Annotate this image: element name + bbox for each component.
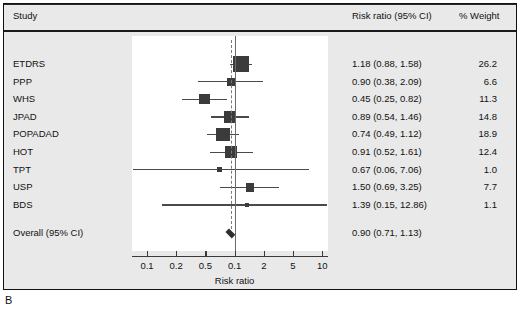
overall-risk-ratio-value: 0.90 (0.71, 1.13) bbox=[352, 227, 422, 238]
x-axis-tick bbox=[322, 251, 323, 256]
weight-value: 1.0 bbox=[459, 164, 497, 175]
study-label: JPAD bbox=[13, 111, 37, 122]
weight-value: 12.4 bbox=[459, 146, 497, 157]
null-effect-line bbox=[235, 36, 236, 256]
study-label: WHS bbox=[13, 93, 35, 104]
risk-ratio-value: 0.90 (0.38, 2.09) bbox=[352, 76, 422, 87]
x-axis-title: Risk ratio bbox=[215, 275, 255, 286]
header-rule-bottom bbox=[4, 30, 516, 32]
x-axis-tick bbox=[264, 251, 265, 256]
weight-value: 14.8 bbox=[459, 111, 497, 122]
summary-effect-line bbox=[231, 40, 232, 229]
x-axis-tick-label: 0.2 bbox=[170, 260, 183, 271]
forest-plot-figure: Study Risk ratio (95% CI) % Weight 0.10.… bbox=[0, 0, 523, 314]
weight-value: 11.3 bbox=[459, 93, 497, 104]
x-axis-tick-label: 0.5 bbox=[199, 260, 212, 271]
x-axis-tick-label: 10 bbox=[317, 260, 328, 271]
x-axis-tick-label: 2 bbox=[261, 260, 266, 271]
risk-ratio-value: 0.89 (0.54, 1.46) bbox=[352, 111, 422, 122]
study-label: PPP bbox=[13, 76, 32, 87]
risk-ratio-value: 1.39 (0.15, 12.86) bbox=[352, 199, 427, 210]
weight-value: 26.2 bbox=[459, 58, 497, 69]
weight-value: 18.9 bbox=[459, 128, 497, 139]
risk-ratio-value: 0.45 (0.25, 0.82) bbox=[352, 93, 422, 104]
study-label: HOT bbox=[13, 146, 33, 157]
x-axis-tick-label: 0.1 bbox=[140, 260, 153, 271]
x-axis-tick bbox=[293, 251, 294, 256]
x-axis-tick bbox=[147, 251, 148, 256]
study-label: ETDRS bbox=[13, 58, 45, 69]
study-label: BDS bbox=[13, 199, 33, 210]
study-label: USP bbox=[13, 181, 33, 192]
x-axis-line bbox=[132, 256, 328, 257]
x-axis-tick bbox=[176, 251, 177, 256]
effect-estimate-marker bbox=[216, 128, 230, 142]
figure-letter: B bbox=[5, 294, 12, 306]
risk-ratio-value: 0.67 (0.06, 7.06) bbox=[352, 164, 422, 175]
study-label: TPT bbox=[13, 164, 31, 175]
overall-label: Overall (95% CI) bbox=[13, 227, 83, 238]
header-rule-top bbox=[4, 4, 516, 5]
risk-ratio-value: 0.74 (0.49, 1.12) bbox=[352, 128, 422, 139]
x-axis-tick bbox=[205, 251, 206, 256]
study-label: POPADAD bbox=[13, 128, 59, 139]
effect-estimate-marker bbox=[199, 94, 210, 105]
weight-value: 1.1 bbox=[459, 199, 497, 210]
x-axis-tick-label: 0.1 bbox=[228, 260, 241, 271]
effect-estimate-marker bbox=[246, 183, 255, 192]
column-header-study: Study bbox=[13, 10, 37, 21]
effect-estimate-marker bbox=[245, 203, 250, 208]
effect-estimate-marker bbox=[217, 167, 222, 172]
weight-value: 7.7 bbox=[459, 181, 497, 192]
risk-ratio-value: 1.18 (0.88, 1.58) bbox=[352, 58, 422, 69]
risk-ratio-value: 1.50 (0.69, 3.25) bbox=[352, 181, 422, 192]
column-header-weight: % Weight bbox=[459, 10, 499, 21]
figure-panel: Study Risk ratio (95% CI) % Weight 0.10.… bbox=[3, 3, 517, 290]
weight-value: 6.6 bbox=[459, 76, 497, 87]
x-axis-tick-label: 5 bbox=[290, 260, 295, 271]
x-axis-tick bbox=[235, 251, 236, 256]
risk-ratio-value: 0.91 (0.52, 1.61) bbox=[352, 146, 422, 157]
column-header-risk-ratio: Risk ratio (95% CI) bbox=[352, 10, 432, 21]
